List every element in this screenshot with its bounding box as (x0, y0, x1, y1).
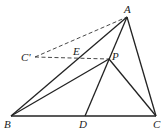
segment-AB (11, 17, 127, 116)
label-C: C (153, 118, 161, 130)
label-A: A (123, 3, 131, 15)
segment-AC (127, 17, 156, 116)
label-D: D (78, 118, 87, 130)
label-E: E (72, 45, 80, 57)
label-Cp: C' (21, 51, 31, 63)
point-labels: ABCDPEC' (4, 3, 161, 130)
segment-BP (11, 59, 109, 116)
label-P: P (111, 50, 119, 62)
label-B: B (4, 118, 11, 130)
segment-CpP (35, 57, 109, 59)
solid-segments (11, 17, 156, 116)
segment-AD (85, 17, 127, 116)
segment-PC (109, 59, 156, 116)
geometry-diagram: ABCDPEC' (0, 0, 162, 134)
